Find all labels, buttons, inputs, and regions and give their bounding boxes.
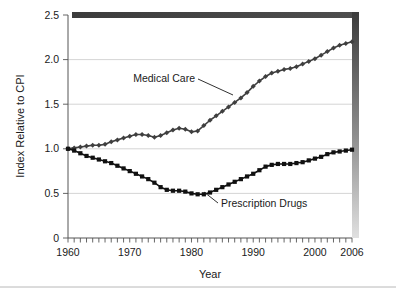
y-axis-ticks xyxy=(63,15,68,238)
y-axis-tick-labels: 0 0.5 1.0 1.5 2.0 2.5 xyxy=(44,9,59,244)
data-point-marker xyxy=(72,148,76,152)
plot-background xyxy=(68,15,352,238)
data-point-marker xyxy=(91,156,95,160)
y-tick-label: 2.0 xyxy=(44,53,59,65)
x-tick-label: 2006 xyxy=(340,246,364,258)
data-point-marker xyxy=(214,188,218,192)
prescription-drugs-label: Prescription Drugs xyxy=(221,197,307,209)
data-point-marker xyxy=(301,160,305,164)
data-point-marker xyxy=(257,168,261,172)
medical-care-label: Medical Care xyxy=(133,72,195,84)
x-tick-label: 1990 xyxy=(242,246,266,258)
data-point-marker xyxy=(325,152,329,156)
data-point-marker xyxy=(140,174,144,178)
data-point-marker xyxy=(313,157,317,161)
data-point-marker xyxy=(344,148,348,152)
x-tick-label: 2000 xyxy=(303,246,327,258)
data-point-marker xyxy=(189,191,193,195)
data-point-marker xyxy=(294,161,298,165)
data-point-marker xyxy=(245,174,249,178)
data-point-marker xyxy=(319,155,323,159)
x-tick-label: 1970 xyxy=(118,246,142,258)
data-point-marker xyxy=(239,177,243,181)
x-axis-minor-ticks xyxy=(68,238,352,243)
data-point-marker xyxy=(152,181,156,185)
y-tick-label: 1.0 xyxy=(44,142,59,154)
data-point-marker xyxy=(66,147,70,151)
y-axis-title: Index Relative to CPI xyxy=(14,74,26,177)
data-point-marker xyxy=(128,169,132,173)
data-point-marker xyxy=(226,182,230,186)
data-point-marker xyxy=(350,148,354,152)
data-point-marker xyxy=(183,190,187,194)
data-point-marker xyxy=(338,149,342,153)
x-tick-label: 1960 xyxy=(56,246,80,258)
data-point-marker xyxy=(251,172,255,176)
index-relative-to-cpi-line-chart: 0 0.5 1.0 1.5 2.0 2.5 Index Relative to … xyxy=(0,0,396,291)
data-point-marker xyxy=(97,157,101,161)
x-tick-label: 1980 xyxy=(180,246,204,258)
data-point-marker xyxy=(196,192,200,196)
data-point-marker xyxy=(121,166,125,170)
data-point-marker xyxy=(171,189,175,193)
data-point-marker xyxy=(165,188,169,192)
data-point-marker xyxy=(103,159,107,163)
data-point-marker xyxy=(208,190,212,194)
data-point-marker xyxy=(134,172,138,176)
data-point-marker xyxy=(270,163,274,167)
shadow-bar-top xyxy=(72,12,356,18)
data-point-marker xyxy=(115,164,119,168)
data-point-marker xyxy=(276,162,280,166)
data-point-marker xyxy=(282,162,286,166)
data-point-marker xyxy=(177,189,181,193)
y-tick-label: 0.5 xyxy=(44,187,59,199)
data-point-marker xyxy=(146,177,150,181)
y-tick-label: 2.5 xyxy=(44,9,59,21)
data-point-marker xyxy=(288,162,292,166)
data-point-marker xyxy=(307,158,311,162)
data-point-marker xyxy=(84,154,88,158)
chart-figure: 0 0.5 1.0 1.5 2.0 2.5 Index Relative to … xyxy=(0,0,396,291)
y-tick-label: 1.5 xyxy=(44,98,59,110)
data-point-marker xyxy=(109,161,113,165)
data-point-marker xyxy=(331,150,335,154)
x-axis-tick-labels: 196019701980199020002006 xyxy=(56,246,364,258)
data-point-marker xyxy=(159,185,163,189)
data-point-marker xyxy=(233,180,237,184)
data-point-marker xyxy=(220,185,224,189)
data-point-marker xyxy=(263,165,267,169)
shadow-bar-right xyxy=(352,12,359,238)
x-axis-title: Year xyxy=(199,268,222,280)
data-point-marker xyxy=(78,151,82,155)
y-tick-label: 0 xyxy=(53,232,59,244)
